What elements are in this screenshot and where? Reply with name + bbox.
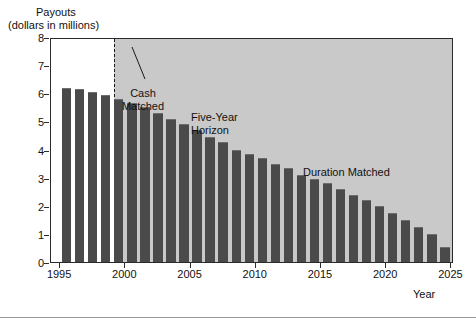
five-year-line1: Five-Year — [191, 111, 238, 124]
x-tick-mark — [320, 263, 321, 268]
bar — [153, 113, 162, 262]
bar — [258, 158, 267, 262]
bar — [310, 179, 319, 262]
y-tick-label: 1 — [4, 229, 44, 241]
y-tick-label: 6 — [4, 88, 44, 100]
x-tick-mark — [450, 263, 451, 268]
x-tick-mark — [124, 263, 125, 268]
cash-matched-line1: Cash — [111, 87, 175, 100]
bar — [401, 220, 410, 262]
bar — [427, 234, 436, 262]
x-tick-label: 2015 — [308, 268, 332, 280]
y-tick-label: 3 — [4, 173, 44, 185]
bar — [75, 89, 84, 262]
chart-figure: Payouts (dollars in millions) 012345678 … — [0, 0, 476, 318]
bar — [414, 227, 423, 262]
bar — [101, 95, 110, 262]
bar — [232, 150, 241, 263]
bar — [192, 130, 201, 262]
x-tick-label: 2000 — [112, 268, 136, 280]
bar — [114, 99, 123, 262]
bar — [140, 107, 149, 262]
bar — [166, 119, 175, 262]
y-tick-mark — [44, 94, 49, 95]
duration-matched-annotation: Duration Matched — [303, 166, 390, 179]
y-tick-mark — [44, 122, 49, 123]
y-tick-mark — [44, 263, 49, 264]
plot-area: Cash Matched Five-Year Horizon Duration … — [50, 38, 453, 263]
five-year-horizon-annotation: Five-Year Horizon — [191, 111, 238, 137]
y-tick-label: 2 — [4, 201, 44, 213]
bar — [297, 175, 306, 262]
x-tick-label: 2010 — [243, 268, 267, 280]
bar — [62, 88, 71, 262]
y-tick-mark — [44, 235, 49, 236]
x-tick-label: 2025 — [438, 268, 462, 280]
x-tick-label: 2020 — [373, 268, 397, 280]
bar — [245, 154, 254, 262]
bar — [349, 195, 358, 263]
cash-matched-line2: Matched — [111, 100, 175, 113]
bar — [218, 142, 227, 262]
y-tick-label: 4 — [4, 145, 44, 157]
bar — [388, 213, 397, 262]
x-tick-label: 2005 — [177, 268, 201, 280]
y-tick-label: 7 — [4, 60, 44, 72]
bar — [284, 168, 293, 262]
x-tick-mark — [59, 263, 60, 268]
bar — [323, 183, 332, 262]
y-tick-label: 8 — [4, 32, 44, 44]
bar — [375, 206, 384, 262]
x-tick-mark — [385, 263, 386, 268]
cash-matched-annotation: Cash Matched — [111, 87, 175, 113]
y-tick-mark — [44, 38, 49, 39]
x-tick-mark — [255, 263, 256, 268]
y-tick-label: 0 — [4, 257, 44, 269]
y-tick-mark — [44, 151, 49, 152]
bar — [205, 137, 214, 262]
bar — [88, 92, 97, 262]
y-axis-ticks: 012345678 — [0, 0, 44, 318]
five-year-line2: Horizon — [191, 124, 238, 137]
bar — [336, 189, 345, 262]
bar — [440, 247, 449, 262]
y-tick-mark — [44, 179, 49, 180]
bar — [127, 103, 136, 262]
y-tick-label: 5 — [4, 116, 44, 128]
x-tick-label: 1995 — [47, 268, 71, 280]
bar — [271, 164, 280, 262]
x-axis-title: Year — [413, 288, 435, 301]
y-tick-mark — [44, 66, 49, 67]
y-tick-mark — [44, 207, 49, 208]
x-tick-mark — [190, 263, 191, 268]
bar — [362, 200, 371, 262]
bar — [179, 124, 188, 262]
